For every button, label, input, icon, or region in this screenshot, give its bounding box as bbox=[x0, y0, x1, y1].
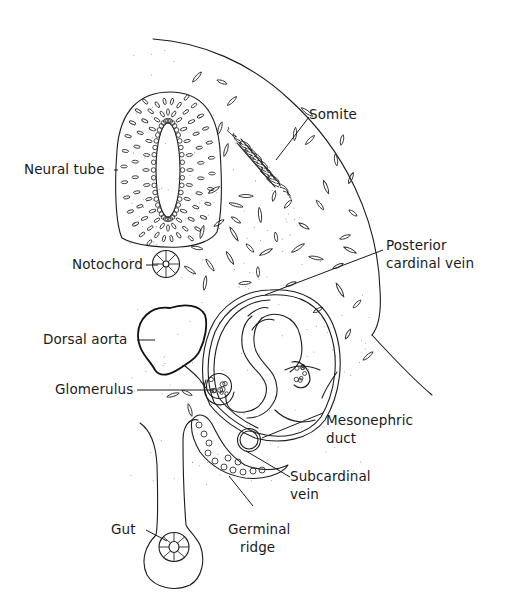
label-posterior-cardinal-vein-line1: Posterior bbox=[386, 237, 447, 254]
label-subcardinal-vein-line2: vein bbox=[290, 486, 319, 503]
label-glomerulus: Glomerulus bbox=[55, 381, 133, 398]
body-wall-outline bbox=[153, 39, 432, 398]
embryo-section-diagram: Neural tube Notochord Somite Posterior c… bbox=[0, 0, 516, 596]
label-somite: Somite bbox=[309, 106, 357, 123]
neural-tube bbox=[116, 92, 222, 247]
somite bbox=[227, 127, 291, 198]
label-germinal-ridge-line1: Germinal bbox=[228, 521, 290, 538]
label-mesonephric-duct-line1: Mesonephric bbox=[326, 412, 413, 429]
label-dorsal-aorta: Dorsal aorta bbox=[43, 331, 127, 348]
label-neural-tube: Neural tube bbox=[24, 161, 105, 178]
label-notochord: Notochord bbox=[72, 256, 143, 273]
diagram-artwork bbox=[0, 0, 516, 596]
label-germinal-ridge-line2: ridge bbox=[240, 539, 275, 556]
label-gut: Gut bbox=[111, 521, 136, 538]
gut bbox=[140, 420, 203, 589]
label-subcardinal-vein-line1: Subcardinal bbox=[290, 468, 371, 485]
label-posterior-cardinal-vein-line2: cardinal vein bbox=[386, 255, 474, 272]
label-mesonephric-duct-line2: duct bbox=[326, 430, 356, 447]
dorsal-aorta bbox=[138, 305, 206, 388]
notochord bbox=[153, 251, 180, 278]
